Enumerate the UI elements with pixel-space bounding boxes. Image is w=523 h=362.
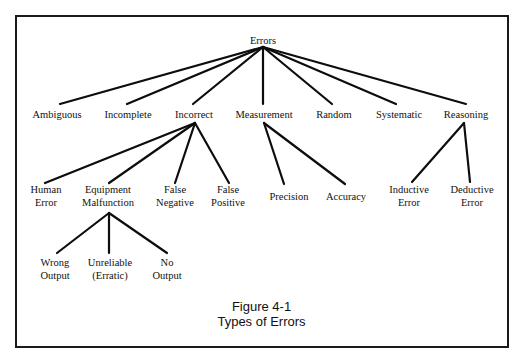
- edge-equipment-wrong-output: [57, 213, 109, 253]
- edge-reasoning-inductive: [412, 123, 464, 182]
- node-unreliable-erratic: Unreliable (Erratic): [88, 256, 132, 282]
- node-label: Reasoning: [444, 108, 488, 121]
- node-human-error: Human Error: [31, 183, 62, 209]
- edge-errors-reasoning: [263, 47, 466, 104]
- node-false-positive: False Positive: [211, 183, 245, 209]
- node-label-line1: False: [156, 183, 194, 196]
- node-label-line1: Human: [31, 183, 62, 196]
- node-accuracy: Accuracy: [326, 190, 366, 203]
- figure-title: Types of Errors: [0, 314, 523, 329]
- node-label: Incomplete: [104, 108, 151, 121]
- edge-errors-systematic: [263, 47, 396, 104]
- node-label-line2: Error: [31, 196, 62, 209]
- edge-equipment-no-output: [109, 213, 167, 253]
- node-incomplete: Incomplete: [104, 108, 151, 121]
- node-label-line2: Output: [40, 269, 69, 282]
- node-label-line1: Deductive: [450, 183, 493, 196]
- node-label-line1: Unreliable: [88, 256, 132, 269]
- node-label-line1: Wrong: [40, 256, 69, 269]
- edge-measurement-accuracy: [264, 123, 345, 184]
- edge-reasoning-deductive: [464, 123, 470, 182]
- node-errors: Errors: [250, 34, 276, 47]
- node-measurement: Measurement: [235, 108, 292, 121]
- node-label: Systematic: [376, 108, 422, 121]
- node-label: Incorrect: [175, 108, 213, 121]
- edge-errors-incorrect: [193, 47, 263, 104]
- node-random: Random: [316, 108, 352, 121]
- node-label-line2: Output: [152, 269, 181, 282]
- node-label-line2: (Erratic): [88, 269, 132, 282]
- edge-incorrect-false-positive: [195, 123, 229, 183]
- node-label: Random: [316, 108, 352, 121]
- node-label: Accuracy: [326, 190, 366, 203]
- node-label: Precision: [269, 190, 308, 203]
- edge-errors-incomplete: [127, 47, 263, 104]
- node-label-line2: Malfunction: [82, 196, 134, 209]
- node-false-negative: False Negative: [156, 183, 194, 209]
- figure-number: Figure 4-1: [0, 299, 523, 314]
- node-wrong-output: Wrong Output: [40, 256, 69, 282]
- node-equipment-malfunction: Equipment Malfunction: [82, 183, 134, 209]
- node-label-line1: No: [152, 256, 181, 269]
- node-precision: Precision: [269, 190, 308, 203]
- node-label-line1: Inductive: [389, 183, 429, 196]
- node-label-line2: Error: [450, 196, 493, 209]
- node-deductive-error: Deductive Error: [450, 183, 493, 209]
- node-label-line1: False: [211, 183, 245, 196]
- edge-incorrect-false-negative: [175, 123, 195, 183]
- edge-errors-ambiguous: [60, 47, 263, 104]
- node-label-line2: Negative: [156, 196, 194, 209]
- node-label-line1: Equipment: [82, 183, 134, 196]
- node-label-line2: Positive: [211, 196, 245, 209]
- node-incorrect: Incorrect: [175, 108, 213, 121]
- node-ambiguous: Ambiguous: [32, 108, 81, 121]
- edge-measurement-precision: [264, 123, 284, 184]
- node-label-line2: Error: [389, 196, 429, 209]
- node-label: Ambiguous: [32, 108, 81, 121]
- node-systematic: Systematic: [376, 108, 422, 121]
- node-label: Errors: [250, 34, 276, 47]
- node-reasoning: Reasoning: [444, 108, 488, 121]
- node-label: Measurement: [235, 108, 292, 121]
- node-no-output: No Output: [152, 256, 181, 282]
- node-inductive-error: Inductive Error: [389, 183, 429, 209]
